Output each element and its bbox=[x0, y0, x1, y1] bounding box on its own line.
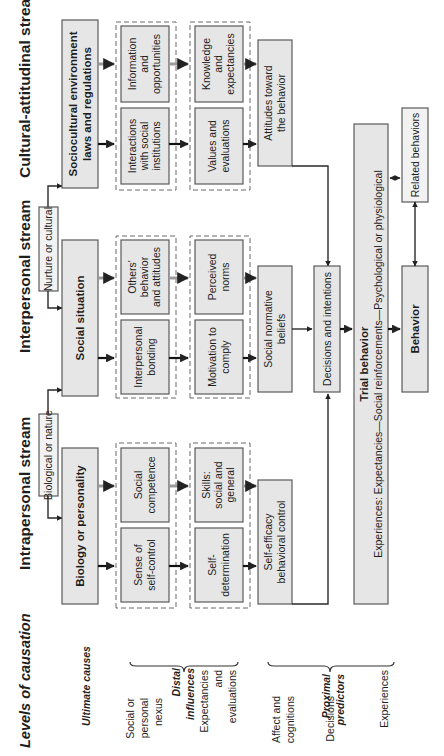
normative-line1: Social normative bbox=[262, 290, 274, 368]
stream-interpersonal-header: Interpersonal stream bbox=[16, 200, 33, 353]
level-nexus-line3: nexus bbox=[152, 698, 164, 726]
biological-nature-label: Biological or nature bbox=[42, 410, 54, 500]
level-nexus-line1: Social or bbox=[124, 698, 136, 739]
level-nexus-line2: personal bbox=[138, 698, 150, 738]
normative-line2: beliefs bbox=[275, 314, 287, 344]
proximal-line2: predictors bbox=[334, 674, 346, 727]
others-line1: Others' bbox=[126, 260, 138, 294]
level-affect-line2: cognitions bbox=[284, 696, 296, 743]
motivation-line1: Motivation to bbox=[206, 327, 218, 387]
skills-line1: Skills: bbox=[200, 471, 212, 498]
sociocultural-label-line1: Sociocultural environment bbox=[67, 31, 79, 176]
knowledge-line2: and bbox=[212, 55, 224, 73]
interactions-line3: institutions bbox=[150, 121, 162, 171]
social-competence-line2: competence bbox=[145, 456, 157, 513]
nurture-to-sociocultural-arrow bbox=[48, 186, 62, 207]
related-behaviors-label: Related behaviors bbox=[409, 113, 421, 198]
level-expect-line3: evaluations bbox=[226, 670, 238, 723]
determination-line1: Self- bbox=[206, 554, 218, 576]
biology-personality-label: Biology or personality bbox=[74, 465, 86, 587]
skills-line3: general bbox=[224, 467, 236, 502]
bonding-line1: Interpersonal bbox=[132, 326, 144, 387]
level-ultimate-causes: Ultimate causes bbox=[80, 646, 92, 726]
distal-line1: Distal bbox=[170, 667, 182, 697]
attitudes-line2: the behavior bbox=[275, 74, 287, 132]
stream-intrapersonal-header: Intrapersonal stream bbox=[16, 417, 33, 570]
skills-line2: social and bbox=[212, 461, 224, 508]
trial-behavior-subtitle: Experiences: Expectancies—Social reinfor… bbox=[372, 170, 384, 558]
attitudes-to-decisions-arrow bbox=[292, 166, 328, 266]
attitudes-line1: Attitudes toward bbox=[262, 65, 274, 140]
knowledge-line1: Knowledge bbox=[200, 38, 212, 90]
theory-of-triadic-influence-diagram: Levels of causation Ultimate causes Soci… bbox=[0, 0, 444, 756]
interactions-line2: with social bbox=[138, 122, 150, 171]
decisions-intentions-label: Decisions and intentions bbox=[321, 272, 333, 386]
values-line1: Values and bbox=[206, 120, 218, 172]
information-line2: and bbox=[138, 55, 150, 73]
level-affect-line1: Affect and bbox=[270, 696, 282, 743]
self-control-line1: Sense of bbox=[132, 544, 144, 586]
stream-cultural-header: Cultural-attitudinal stream bbox=[16, 0, 33, 178]
information-line3: opportunities bbox=[150, 34, 162, 94]
proximal-line1: Proximal bbox=[320, 673, 332, 718]
determination-line2: determination bbox=[219, 533, 231, 597]
norms-line1: Perceived bbox=[206, 254, 218, 301]
level-experiences: Experiences bbox=[378, 670, 390, 728]
behavior-label: Behavior bbox=[409, 304, 421, 354]
social-situation-label: Social situation bbox=[74, 276, 86, 361]
efficacy-line1: Self-efficacy bbox=[262, 513, 274, 571]
efficacy-line2: behavioral control bbox=[275, 501, 287, 584]
trial-behavior-title: Trial behavior bbox=[358, 326, 370, 401]
others-line3: and attitudes bbox=[150, 247, 162, 307]
nurture-to-social-arrow bbox=[48, 291, 62, 308]
others-line2: behavior bbox=[138, 256, 150, 297]
bonding-line2: bonding bbox=[145, 338, 157, 376]
proximal-brace bbox=[268, 662, 394, 672]
information-line1: Information bbox=[126, 38, 138, 91]
level-expect-line2: and bbox=[212, 670, 224, 688]
values-line2: evaluations bbox=[219, 119, 231, 172]
levels-column: Levels of causation Ultimate causes Soci… bbox=[17, 613, 394, 748]
social-competence-line1: Social bbox=[132, 471, 144, 500]
self-control-line2: self-control bbox=[145, 539, 157, 590]
level-expect-line1: Expectancies bbox=[198, 670, 210, 732]
interactions-line1: Interactions bbox=[126, 119, 138, 173]
knowledge-line3: expectancies bbox=[224, 33, 236, 94]
sociocultural-label-line2: laws and regulations bbox=[81, 47, 93, 161]
nurture-cultural-label: Nurture or cultural bbox=[42, 207, 54, 291]
levels-title: Levels of causation bbox=[17, 613, 33, 748]
norms-line2: norms bbox=[219, 262, 231, 291]
distal-line2: influences bbox=[184, 668, 196, 720]
efficacy-to-decisions-arrow bbox=[292, 394, 328, 604]
motivation-line2: comply bbox=[219, 340, 231, 374]
